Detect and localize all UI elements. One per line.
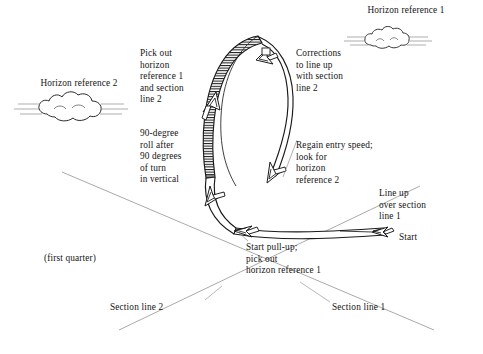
diagram-canvas: Pick out horizon reference 1 and section… — [0, 0, 483, 354]
label-section-line-1: Section line 1 — [332, 302, 424, 314]
cloud-icon-horizon-reference-2 — [14, 92, 128, 121]
label-section-line-2: Section line 2 — [110, 302, 202, 314]
annotation-start: Start — [399, 232, 445, 244]
aircraft-dart-icon-roll-point — [205, 186, 225, 206]
label-horizon-reference-2: Horizon reference 2 — [14, 78, 144, 90]
cloud-icon-horizon-reference-1 — [344, 26, 432, 48]
annotation-regain-entry-speed: Regain entry speed; look for horizon ref… — [296, 140, 390, 186]
annotation-start-pull-up: Start pull-up; pick out horizon referenc… — [246, 242, 378, 277]
annotation-first-quarter: (first quarter) — [44, 253, 144, 265]
label-horizon-reference-1: Horizon reference 1 — [336, 5, 476, 17]
maneuver-illustration — [0, 0, 483, 354]
annotation-90-degree-roll: 90-degree roll after 90 degrees of turn … — [140, 128, 235, 186]
aircraft-dart-icon-descent — [267, 162, 286, 183]
annotation-pick-out-horizon-reference: Pick out horizon reference 1 and section… — [140, 48, 235, 106]
annotation-corrections-section-line-2: Corrections to line up with section line… — [296, 48, 392, 94]
annotation-line-up-over-section-line-1: Line up over section line 1 — [379, 188, 474, 223]
aircraft-dart-icon-apex — [256, 48, 278, 64]
